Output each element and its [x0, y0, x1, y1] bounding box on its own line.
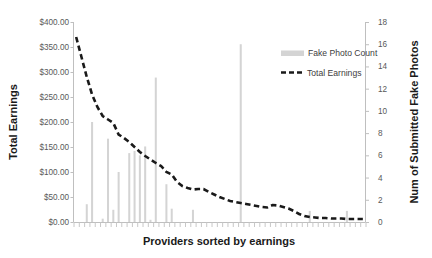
bar-fake-photo-count-7	[112, 210, 114, 222]
bar-fake-photo-count-18	[171, 209, 173, 222]
bar-fake-photo-count-17	[165, 184, 167, 222]
bar-fake-photo-count-8	[118, 172, 120, 222]
earnings-fake-photo-chart: $0.00$50.00$100.00$150.00$200.00$250.00$…	[0, 0, 432, 258]
y-axis-left-tick-1: $50.00	[44, 193, 69, 202]
bar-fake-photo-count-15	[155, 78, 157, 222]
bar-fake-photo-count-22	[192, 210, 194, 222]
y-axis-left-tick-7: $350.00	[39, 43, 69, 52]
y-axis-right-title: Num of Submitted Fake Photos	[408, 40, 420, 203]
legend-label-fake-photo-count: Fake Photo Count	[308, 48, 378, 58]
y-axis-right-tick-4: 8	[378, 129, 383, 138]
legend-swatch-fake-photo-count	[281, 51, 304, 57]
y-axis-right-tick-8: 16	[378, 40, 388, 49]
bar-fake-photo-count-3	[91, 122, 93, 222]
y-axis-left-tick-labels: $0.00$50.00$100.00$150.00$200.00$250.00$…	[39, 18, 73, 227]
legend-label-total-earnings: Total Earnings	[307, 68, 361, 78]
bar-fake-photo-count-6	[107, 139, 109, 222]
y-axis-right-tick-2: 4	[378, 174, 383, 183]
bar-fake-photo-count-12	[139, 155, 141, 222]
y-axis-right-tick-3: 6	[378, 151, 383, 160]
bar-fake-photo-count-10	[128, 153, 130, 222]
y-axis-right-tick-1: 2	[378, 196, 383, 205]
chart-container: $0.00$50.00$100.00$150.00$200.00$250.00$…	[0, 0, 432, 258]
bar-fake-photo-count-14	[149, 220, 151, 222]
y-axis-left-tick-5: $250.00	[39, 93, 69, 102]
y-axis-right-tick-0: 0	[378, 218, 383, 227]
y-axis-right-tick-5: 10	[378, 107, 388, 116]
y-axis-left-tick-4: $200.00	[39, 118, 69, 127]
y-axis-left-title: Total Earnings	[7, 84, 19, 160]
y-axis-right-tick-6: 12	[378, 85, 388, 94]
bar-fake-photo-count-51	[346, 211, 348, 222]
bar-fake-photo-count-31	[240, 44, 242, 222]
y-axis-right-tick-7: 14	[378, 62, 388, 71]
y-axis-left-tick-3: $150.00	[39, 143, 69, 152]
y-axis-left-tick-6: $300.00	[39, 68, 69, 77]
bar-fake-photo-count-11	[134, 151, 136, 222]
y-axis-left-tick-0: $0.00	[49, 218, 70, 227]
y-axis-right-tick-9: 18	[378, 18, 388, 27]
y-axis-left-tick-2: $100.00	[39, 168, 69, 177]
bar-fake-photo-count-2	[86, 204, 88, 222]
y-axis-left-tick-8: $400.00	[39, 18, 69, 27]
bar-fake-photo-count-5	[102, 219, 104, 222]
x-axis-title: Providers sorted by earnings	[143, 235, 295, 247]
